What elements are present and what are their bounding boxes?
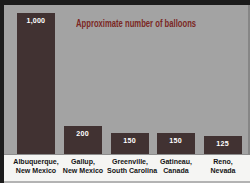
axis-label-line: Greenville, (107, 157, 153, 166)
axis-label-gatineau-canada: Gatineau,Canada (153, 157, 199, 175)
axis-label-line: Albuquerque, (13, 157, 59, 166)
axis-label-line: New Mexico (60, 166, 106, 175)
balloon-bar-chart: Approximate number of balloons 1,0002001… (0, 0, 250, 183)
axis-label-line: Gallup, (60, 157, 106, 166)
axis-label-line: Canada (153, 166, 199, 175)
axis-label-albuquerque-new-mexico: Albuquerque,New Mexico (13, 157, 59, 175)
axis-label-reno-nevada: Reno,Nevada (200, 157, 246, 175)
axis-label-line: Reno, (200, 157, 246, 166)
axis-label-line: New Mexico (13, 166, 59, 175)
axis-label-line: Gatineau, (153, 157, 199, 166)
chart-frame-top (0, 0, 250, 5)
axis-label-greenville-south-carolina: Greenville,South Carolina (107, 157, 153, 175)
axis-label-line: Nevada (200, 166, 246, 175)
chart-frame-left (0, 0, 4, 183)
chart-title: Approximate number of balloons (76, 17, 196, 29)
axis-label-line: South Carolina (107, 166, 153, 175)
axis-label-gallup-new-mexico: Gallup,New Mexico (60, 157, 106, 175)
